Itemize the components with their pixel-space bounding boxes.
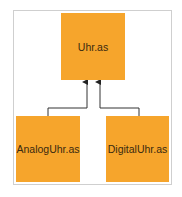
node-label: DigitalUhr.as [108,143,168,155]
edge-analog-to-uhr [48,82,87,116]
edge-digital-to-uhr [100,82,139,116]
node-label: AnalogUhr.as [16,143,79,155]
node-digital-uhr: DigitalUhr.as [106,116,169,182]
node-label: Uhr.as [78,41,108,53]
node-analog-uhr: AnalogUhr.as [16,116,80,182]
node-uhr: Uhr.as [61,13,125,80]
